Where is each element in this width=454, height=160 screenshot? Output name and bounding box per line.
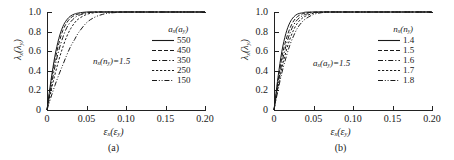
legend-swatch-b-0 [378, 37, 400, 44]
x-axis-title-a: εx(εy) [0, 126, 227, 137]
y-tick-b-5 [275, 110, 279, 111]
annotation-a: nx(ny)=1.5 [93, 56, 130, 66]
legend-label-b-2: 1.6 [403, 56, 414, 65]
legend-item-a-150: 150 [152, 75, 191, 85]
legend-label-a-3: 250 [177, 66, 191, 75]
panel-caption-b: (b) [227, 142, 454, 153]
legend-title-b: nx(ny) [378, 24, 414, 34]
legend-swatch-a-3 [152, 67, 174, 74]
x-tick-label-a-0: 0 [27, 113, 67, 124]
chart-panel-a: 1.00.80.60.40.20 00.050.100.150.20 λx(λy… [0, 0, 227, 160]
x-tick-label-b-0: 0 [254, 113, 294, 124]
legend-label-b-3: 1.7 [403, 66, 414, 75]
x-tick-label-b-4: 0.20 [412, 113, 452, 124]
legend-item-a-450: 450 [152, 45, 191, 55]
annotation-b: ax(ay)=1.5 [313, 58, 350, 68]
legend-title-a: ax(ay) [152, 24, 191, 34]
legend-swatch-a-0 [152, 37, 174, 44]
legend-label-b-0: 1.4 [403, 36, 414, 45]
panel-caption-a: (a) [0, 142, 227, 153]
x-tick-label-b-2: 0.10 [333, 113, 373, 124]
legend-swatch-a-2 [152, 57, 174, 64]
chart-panel-b: 1.00.80.60.40.20 00.050.100.150.20 λx(λy… [227, 0, 454, 160]
y-tick-label-b-0: 1.0 [227, 7, 268, 17]
y-axis-title-a: λx(λy) [12, 20, 23, 80]
legend-item-b-1.6: 1.6 [378, 55, 414, 65]
x-tick-label-a-2: 0.10 [106, 113, 146, 124]
legend-item-b-1.7: 1.7 [378, 65, 414, 75]
legend-swatch-b-4 [378, 77, 400, 84]
legend-swatch-a-1 [152, 47, 174, 54]
y-tick-label-a-0: 1.0 [0, 7, 41, 17]
legend-item-b-1.8: 1.8 [378, 75, 414, 85]
legend-swatch-b-2 [378, 57, 400, 64]
legend-label-a-2: 350 [177, 56, 191, 65]
legend-item-a-250: 250 [152, 65, 191, 75]
legend-label-b-1: 1.5 [403, 46, 414, 55]
legend-swatch-b-1 [378, 47, 400, 54]
x-tick-a-4 [205, 106, 206, 111]
y-tick-label-b-4: 0.2 [227, 85, 268, 95]
figure-two-panel-chart: 1.00.80.60.40.20 00.050.100.150.20 λx(λy… [0, 0, 454, 160]
legend-a: ax(ay) 550450350250150 [152, 24, 191, 85]
legend-item-a-550: 550 [152, 35, 191, 45]
legend-item-a-350: 350 [152, 55, 191, 65]
x-tick-label-a-3: 0.15 [146, 113, 186, 124]
x-axis-title-b: εx(εy) [227, 126, 454, 137]
legend-label-b-4: 1.8 [403, 76, 414, 85]
legend-label-a-1: 450 [177, 46, 191, 55]
x-tick-label-a-4: 0.20 [185, 113, 225, 124]
legend-item-b-1.5: 1.5 [378, 45, 414, 55]
legend-label-a-0: 550 [177, 36, 191, 45]
legend-item-b-1.4: 1.4 [378, 35, 414, 45]
x-tick-label-b-3: 0.15 [373, 113, 413, 124]
x-tick-label-b-1: 0.05 [294, 113, 334, 124]
y-tick-label-a-4: 0.2 [0, 85, 41, 95]
x-tick-label-a-1: 0.05 [67, 113, 107, 124]
legend-label-a-4: 150 [177, 76, 191, 85]
y-axis-title-b: λx(λy) [239, 20, 250, 80]
legend-b: nx(ny) 1.41.51.61.71.8 [378, 24, 414, 85]
y-tick-a-5 [48, 110, 52, 111]
legend-rows-a: 550450350250150 [152, 35, 191, 85]
legend-swatch-a-4 [152, 77, 174, 84]
x-tick-b-4 [432, 106, 433, 111]
legend-rows-b: 1.41.51.61.71.8 [378, 35, 414, 85]
legend-swatch-b-3 [378, 67, 400, 74]
